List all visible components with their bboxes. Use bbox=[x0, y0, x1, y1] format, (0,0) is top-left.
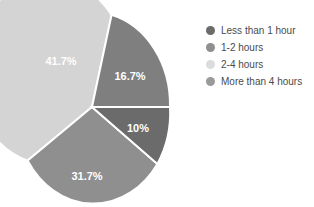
legend-item-more-than-4-hours[interactable]: More than 4 hours bbox=[206, 73, 314, 90]
legend-swatch-icon bbox=[206, 43, 215, 52]
pie-slice-label-2-4-hours: 41.7% bbox=[45, 55, 76, 67]
legend-item-label: Less than 1 hour bbox=[221, 25, 296, 37]
pie-chart: 41.7% 31.7% 10% 16.7% bbox=[0, 0, 200, 207]
pie-slice-label-1-2-hours: 31.7% bbox=[71, 170, 102, 182]
pie-chart-screenshot: 41.7% 31.7% 10% 16.7% Less than 1 hour 1… bbox=[0, 0, 314, 207]
chart-legend: Less than 1 hour 1-2 hours 2-4 hours Mor… bbox=[206, 22, 314, 90]
pie-slice-label-more-than-4-hours: 16.7% bbox=[114, 70, 145, 82]
legend-item-1-2-hours[interactable]: 1-2 hours bbox=[206, 39, 314, 56]
pie-slice-label-less-than-1-hour: 10% bbox=[127, 122, 149, 134]
pie-chart-svg: 41.7% 31.7% 10% 16.7% bbox=[0, 0, 200, 207]
legend-item-label: 2-4 hours bbox=[221, 59, 263, 71]
legend-swatch-icon bbox=[206, 77, 215, 86]
legend-item-label: More than 4 hours bbox=[221, 76, 302, 88]
legend-item-2-4-hours[interactable]: 2-4 hours bbox=[206, 56, 314, 73]
legend-swatch-icon bbox=[206, 60, 215, 69]
legend-item-label: 1-2 hours bbox=[221, 42, 263, 54]
legend-swatch-icon bbox=[206, 26, 215, 35]
legend-item-less-than-1-hour[interactable]: Less than 1 hour bbox=[206, 22, 314, 39]
